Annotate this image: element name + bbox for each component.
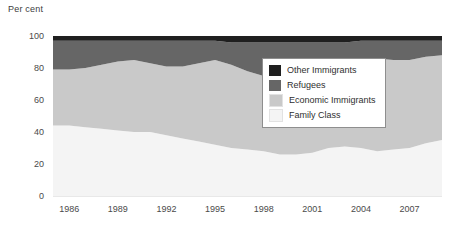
legend-swatch-family-class xyxy=(269,109,283,122)
x-tick-label-1986: 1986 xyxy=(59,204,79,214)
y-tick-label-20: 20 xyxy=(34,159,44,169)
y-tick-label-100: 100 xyxy=(29,31,44,41)
x-tick-label-1998: 1998 xyxy=(254,204,274,214)
stacked-area-chart: Per cent 020406080100 198619891992199519… xyxy=(0,0,458,232)
y-tick-label-0: 0 xyxy=(39,191,44,201)
x-tick-label-2004: 2004 xyxy=(351,204,371,214)
x-tick-label-1992: 1992 xyxy=(156,204,176,214)
legend-label: Other Immigrants xyxy=(287,65,357,76)
x-tick-label-2001: 2001 xyxy=(302,204,322,214)
legend-item-family-class[interactable]: Family Class xyxy=(269,109,376,122)
x-tick-label-1989: 1989 xyxy=(108,204,128,214)
y-axis-tick-labels: 020406080100 xyxy=(0,0,53,232)
x-tick-label-1995: 1995 xyxy=(205,204,225,214)
y-tick-label-80: 80 xyxy=(34,63,44,73)
y-tick-label-40: 40 xyxy=(34,127,44,137)
legend-label: Family Class xyxy=(289,110,341,121)
x-axis-tick-labels: 19861989199219951998200120042007 xyxy=(0,204,458,224)
chart-legend: Other ImmigrantsRefugeesEconomic Immigra… xyxy=(262,58,386,128)
legend-item-economic-immigrants[interactable]: Economic Immigrants xyxy=(269,94,376,107)
legend-item-other-immigrants[interactable]: Other Immigrants xyxy=(269,64,376,77)
legend-swatch-refugees xyxy=(269,80,281,91)
legend-item-refugees[interactable]: Refugees xyxy=(269,79,376,92)
legend-label: Refugees xyxy=(287,80,326,91)
y-tick-label-60: 60 xyxy=(34,95,44,105)
x-axis-line xyxy=(53,196,442,197)
legend-label: Economic Immigrants xyxy=(289,95,376,106)
x-tick-label-2007: 2007 xyxy=(400,204,420,214)
legend-swatch-other-immigrants xyxy=(269,65,281,76)
legend-swatch-economic-immigrants xyxy=(269,94,283,107)
